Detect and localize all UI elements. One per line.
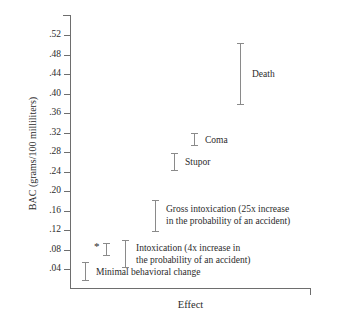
y-axis-top-cap (63, 15, 70, 16)
range-bar-cap-bottom (191, 145, 198, 146)
y-axis-line (70, 15, 71, 289)
y-tick-mark (64, 94, 70, 95)
y-tick-mark (64, 191, 70, 192)
y-tick-label: .28 (49, 147, 61, 157)
y-tick-label: .32 (49, 128, 61, 138)
range-bar-gross-intoxication (152, 200, 159, 232)
range-bar-cap-bottom (82, 280, 89, 281)
range-bar-unlabeled (103, 243, 110, 256)
y-tick-mark (64, 230, 70, 231)
y-tick-mark (64, 35, 70, 36)
y-tick-label: .04 (49, 264, 61, 274)
range-bar-stupor (171, 153, 178, 171)
range-bar-death (237, 43, 244, 105)
y-axis-title: BAC (grams/100 milliliters) (27, 54, 38, 254)
bac-effect-chart: .52 .48 .44 .40 .36 .32 .28 .24 .20 .16 … (0, 0, 349, 325)
y-tick-mark (64, 152, 70, 153)
y-tick-label: .40 (49, 89, 61, 99)
range-bar-cap-top (82, 262, 89, 263)
range-bar-cap-top (152, 200, 159, 201)
y-tick-label: .12 (49, 225, 61, 235)
y-tick-label: .44 (49, 69, 61, 79)
range-bar-cap-top (237, 43, 244, 44)
y-tick-mark (64, 113, 70, 114)
label-death: Death (252, 68, 275, 80)
range-bar-minimal-behavioral-change (82, 262, 89, 281)
range-bar-cap-top (103, 243, 110, 244)
asterisk-annotation: * (94, 241, 100, 252)
x-axis-right-cap (310, 288, 311, 295)
label-stupor: Stupor (185, 156, 210, 168)
y-tick-mark (64, 133, 70, 134)
y-tick-label: .24 (49, 167, 61, 177)
range-bar-stem (174, 153, 175, 171)
x-axis-title: Effect (70, 299, 311, 310)
y-tick-label: .48 (49, 50, 61, 60)
x-axis-line (70, 288, 311, 289)
y-tick-mark (64, 172, 70, 173)
y-tick-mark (64, 269, 70, 270)
range-bar-cap-bottom (171, 170, 178, 171)
label-coma: Coma (205, 134, 228, 146)
range-bar-coma (191, 133, 198, 146)
y-tick-mark (64, 250, 70, 251)
range-bar-cap-bottom (103, 255, 110, 256)
range-bar-stem (240, 43, 241, 105)
range-bar-cap-top (191, 133, 198, 134)
label-minimal-behavioral-change: Minimal behavioral change (96, 266, 200, 278)
range-bar-stem (155, 200, 156, 232)
y-tick-mark (64, 211, 70, 212)
y-tick-mark (64, 74, 70, 75)
range-bar-cap-top (122, 240, 129, 241)
y-tick-label: .52 (49, 30, 61, 40)
range-bar-cap-bottom (237, 104, 244, 105)
label-gross-intoxication: Gross intoxication (25x increase in the … (166, 203, 290, 227)
y-tick-label: .16 (49, 206, 61, 216)
y-tick-label: .08 (49, 245, 61, 255)
range-bar-intoxication (122, 240, 129, 268)
range-bar-cap-top (171, 153, 178, 154)
y-tick-label: .36 (49, 108, 61, 118)
range-bar-stem (85, 262, 86, 281)
label-intoxication: Intoxication (4x increase in the probabi… (136, 242, 250, 266)
y-tick-label: .20 (49, 186, 61, 196)
range-bar-stem (125, 240, 126, 268)
y-tick-mark (64, 55, 70, 56)
range-bar-cap-bottom (152, 231, 159, 232)
